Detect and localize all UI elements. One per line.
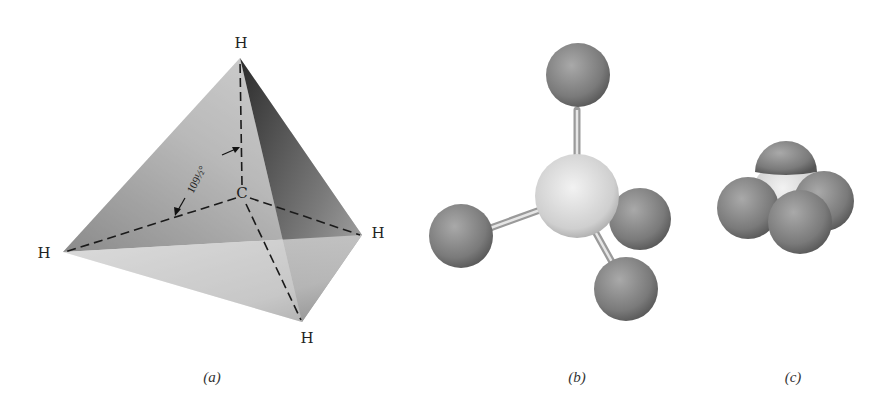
hydrogen-atom-top [546, 43, 610, 107]
panel-a-tetrahedron: 109½° H H H H C (a) [37, 34, 384, 386]
panel-c-space-filling: (c) [717, 141, 854, 386]
panel-b-ball-and-stick: (b) [429, 43, 671, 386]
atom-label-right: H [371, 224, 384, 242]
atom-label-center: C [236, 184, 247, 202]
hydrogen-atom-left [429, 204, 493, 268]
atom-label-top: H [234, 34, 247, 52]
carbon-atom [535, 154, 619, 238]
sf-hydrogen-top [755, 141, 817, 175]
atom-label-bottom: H [300, 329, 313, 347]
caption-a: (a) [203, 369, 221, 386]
caption-b: (b) [568, 369, 586, 386]
sf-hydrogen-front [768, 190, 832, 254]
atom-label-left: H [37, 244, 50, 262]
figure-canvas: 109½° H H H H C (a) (b) (c) [0, 0, 886, 400]
hydrogen-atom-bottom [594, 257, 658, 321]
caption-c: (c) [785, 369, 802, 386]
